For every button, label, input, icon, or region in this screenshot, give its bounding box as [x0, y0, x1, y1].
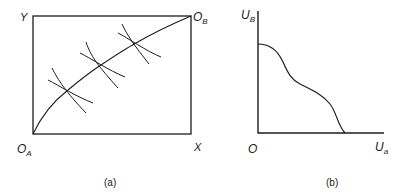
indifference-curve-b2 [80, 53, 125, 77]
edgeworth-diagram-figure: Y OB OA X (a) UB O Ua (b) [0, 0, 407, 195]
caption-a: (a) [104, 177, 116, 188]
indifference-curve-a1 [52, 68, 86, 113]
indifference-curve-b3 [118, 33, 161, 57]
indifference-curve-b1 [48, 80, 93, 103]
panel-b-utility-frontier: UB O Ua (b) [241, 8, 389, 188]
contract-curve [33, 16, 191, 134]
label-origin-b: OB [193, 10, 208, 26]
utility-possibility-curve [258, 44, 345, 133]
label-origin-a: OA [17, 142, 32, 158]
label-x-corner: X [193, 141, 202, 153]
label-y-axis: UB [241, 8, 256, 24]
edgeworth-box-frame [33, 16, 191, 134]
label-y-corner: Y [20, 11, 28, 23]
caption-b: (b) [326, 177, 338, 188]
label-x-axis: Ua [375, 140, 389, 156]
label-origin: O [248, 142, 257, 156]
indifference-curve-a3 [122, 24, 149, 64]
panel-a-edgeworth-box: Y OB OA X (a) [17, 10, 208, 188]
